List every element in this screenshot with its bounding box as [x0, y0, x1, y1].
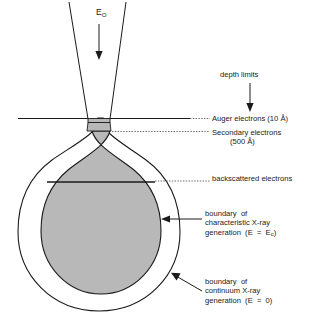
beam-direction-arrow [95, 24, 102, 60]
characteristic-xray-boundary-label: boundary ofcharacteristic X-raygeneratio… [205, 209, 276, 237]
beam-edge-right [110, 2, 126, 119]
backscattered-electrons-label: backscattered electrons [212, 174, 292, 183]
characteristic-line-2: characteristic X-ray [205, 218, 270, 227]
characteristic-line-3b: ) [274, 228, 277, 237]
interaction-volume-diagram [0, 0, 325, 329]
depth-limits-arrow [246, 83, 253, 112]
continuum-line-1: boundary of [205, 277, 247, 286]
auger-electrons-label: Auger electrons (10 Å) [212, 114, 288, 123]
depth-limits-label: depth limits [220, 70, 258, 79]
continuum-xray-arrow [171, 273, 202, 291]
diagram-canvas: EO depth limits Auger electrons (10 Å) S… [0, 0, 325, 329]
secondary-electrons-label: Secondary electrons(500 Å) [212, 128, 281, 147]
characteristic-line-3a: generation (E = E [205, 228, 271, 237]
beam-edge-left [69, 2, 88, 119]
auger-electron-layer [88, 119, 110, 123]
secondary-electrons-line2: (500 Å) [212, 137, 281, 146]
secondary-electrons-line1: Secondary electrons [212, 128, 281, 137]
characteristic-line-1: boundary of [205, 209, 247, 218]
secondary-electron-layer [87, 123, 111, 132]
beam-energy-label: EO [96, 8, 107, 17]
continuum-xray-boundary-label: boundary ofcontinuum X-raygeneration (E … [205, 277, 272, 305]
continuum-line-2: continuum X-ray [205, 286, 260, 295]
characteristic-subscript: c [271, 230, 274, 237]
continuum-line-3: generation (E = 0) [205, 296, 272, 305]
